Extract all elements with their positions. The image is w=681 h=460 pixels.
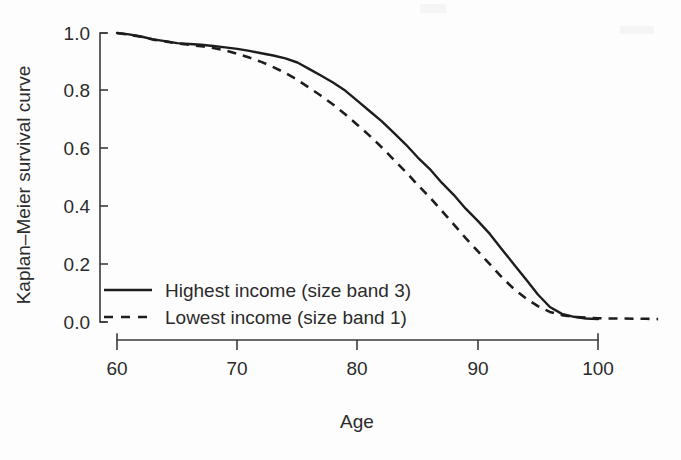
- chart-legend: Highest income (size band 3) Lowest inco…: [104, 280, 411, 328]
- y-tick-label-6: 0.0: [64, 312, 90, 333]
- y-axis-title: Kaplan–Meier survival curve: [13, 66, 34, 305]
- kaplan-meier-figure: 1.0 0.8 0.6 0.4 0.2 0.0 60 70 80 90 100 …: [0, 0, 681, 460]
- x-tick-label-3: 80: [346, 358, 367, 379]
- x-tick-label-5: 100: [582, 358, 614, 379]
- y-axis-line: [100, 33, 106, 322]
- legend-label-highest-income: Highest income (size band 3): [165, 280, 411, 301]
- x-tick-label-1: 60: [106, 358, 127, 379]
- y-tick-label-4: 0.4: [64, 196, 91, 217]
- y-tick-label-2: 0.8: [64, 80, 90, 101]
- y-tick-label-1: 1.0: [64, 23, 90, 44]
- legend-label-lowest-income: Lowest income (size band 1): [165, 307, 407, 328]
- y-tick-label-3: 0.6: [64, 138, 90, 159]
- x-axis-line: [117, 334, 598, 340]
- x-tick-label-4: 90: [467, 358, 488, 379]
- x-tick-label-2: 70: [226, 358, 247, 379]
- survival-curve-highest-income: [117, 33, 598, 319]
- y-tick-label-5: 0.2: [64, 254, 90, 275]
- chart-canvas: 1.0 0.8 0.6 0.4 0.2 0.0 60 70 80 90 100 …: [0, 0, 681, 460]
- x-axis-title: Age: [340, 411, 374, 432]
- survival-curve-lowest-income: [117, 33, 658, 319]
